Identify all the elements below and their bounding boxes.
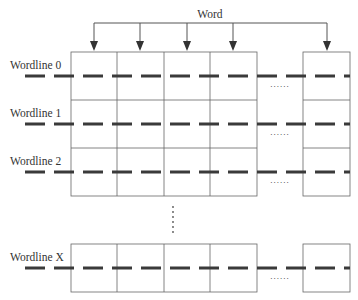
- wordline-2-label: Wordline 2: [10, 155, 61, 167]
- horizontal-ellipsis: ...... ...... ...... ......: [270, 79, 290, 281]
- arrowhead-icons: [90, 41, 331, 51]
- svg-text:......: ......: [270, 271, 290, 281]
- word-bus: [94, 23, 327, 42]
- wordline-0-label: Wordline 0: [10, 59, 61, 71]
- wordline-x-label: Wordline X: [10, 251, 64, 263]
- svg-text:......: ......: [270, 127, 290, 137]
- svg-text:......: ......: [270, 79, 290, 89]
- wordline-dashes: [25, 76, 350, 268]
- wordline-1-label: Wordline 1: [10, 107, 61, 119]
- word-label: Word: [197, 8, 223, 20]
- memory-array-diagram: Word Wordline 0 Wordline 1 Wo: [0, 0, 358, 300]
- vertical-ellipsis: [172, 206, 174, 233]
- svg-text:......: ......: [270, 175, 290, 185]
